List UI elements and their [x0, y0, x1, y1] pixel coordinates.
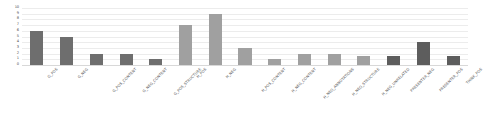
y-axis-tick-label: 0 — [17, 63, 19, 67]
y-axis-tick-label: 3 — [17, 46, 19, 50]
x-axis-tick-label: G_POS — [47, 68, 59, 80]
x-axis-tick-label: G_NEG — [77, 68, 89, 80]
bar — [387, 56, 400, 65]
bar — [209, 14, 222, 65]
x-axis-tick-label: H_NEG_ANNOTATIONS — [324, 68, 356, 100]
x-axis-tick-label: G_POS_CONTENT — [113, 68, 139, 94]
bar — [447, 56, 460, 65]
y-axis-tick-label: 8 — [17, 18, 19, 22]
x-axis-tick-label: PRESENTER_NEG — [410, 68, 435, 93]
y-axis-tick-label: 5 — [17, 35, 19, 39]
bar — [179, 25, 192, 65]
bar — [120, 54, 133, 65]
plot-area — [22, 8, 468, 65]
y-axis: 012345678910 — [0, 8, 21, 65]
x-axis-tick-label: H_POS_CONTENT — [261, 68, 287, 94]
x-axis-tick-label: H_NEG_UNRELATED — [382, 68, 411, 97]
x-axis-tick-label: PRESENTER_POS — [440, 68, 465, 93]
bar — [238, 48, 251, 65]
bar — [417, 42, 430, 65]
y-axis-tick-label: 4 — [17, 40, 19, 44]
bar — [30, 31, 43, 65]
bar — [60, 37, 73, 66]
x-axis-tick-label: H_NEG_CONTENT — [291, 68, 317, 94]
x-axis-tick-label: H_NEG — [226, 68, 238, 80]
y-axis-tick-label: 1 — [17, 58, 19, 62]
y-axis-tick-label: 7 — [17, 23, 19, 27]
y-axis-tick-label: 6 — [17, 29, 19, 33]
bar — [357, 56, 370, 65]
y-axis-tick-label: 2 — [17, 52, 19, 56]
y-axis-tick-label: 9 — [17, 12, 19, 16]
bars-layer — [22, 8, 468, 65]
x-axis-tick-label: THINK_POS — [466, 68, 484, 86]
x-axis-tick-label: H_NEG_STRUCTURE — [352, 68, 381, 97]
x-axis-tick-label: G_NEG_CONTENT — [143, 68, 169, 94]
bar — [328, 54, 341, 65]
x-axis-labels: G_POSG_NEGG_POS_CONTENTG_NEG_CONTENTG_PO… — [22, 65, 468, 123]
y-axis-tick-label: 10 — [15, 6, 19, 10]
bar — [90, 54, 103, 65]
bar — [298, 54, 311, 65]
